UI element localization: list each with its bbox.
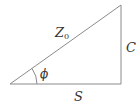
vertical-side-label: C xyxy=(126,40,136,55)
hypotenuse-line xyxy=(10,5,121,84)
hypotenuse-label: Z0 xyxy=(54,25,69,41)
horizontal-side-label: S xyxy=(74,89,83,104)
impedance-triangle-diagram: Z0 C S ϕ xyxy=(0,0,140,106)
hypotenuse-label-subscript: 0 xyxy=(64,32,69,41)
triangle xyxy=(10,5,121,84)
angle-label: ϕ xyxy=(40,67,48,81)
angle-arc xyxy=(32,69,37,85)
